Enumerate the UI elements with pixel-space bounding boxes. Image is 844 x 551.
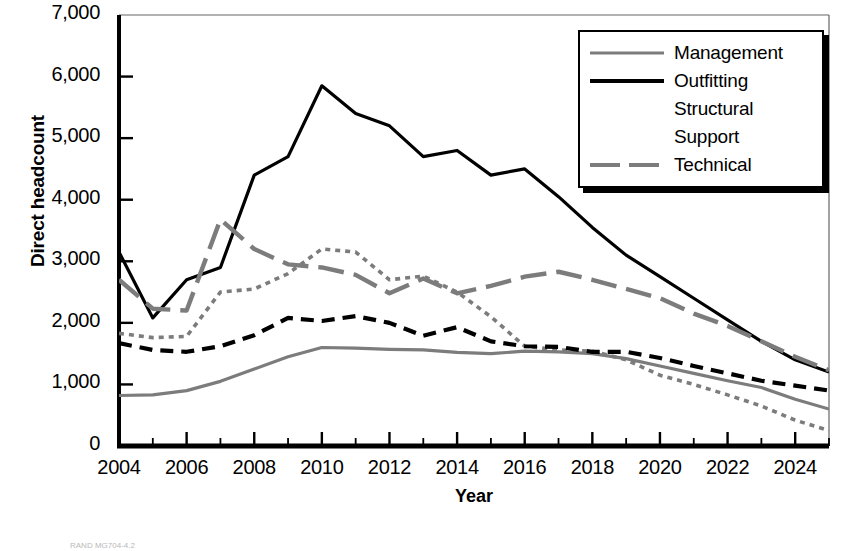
- legend-swatch-solid-gray-icon: [590, 46, 664, 60]
- legend-item-support[interactable]: Support: [590, 124, 820, 150]
- legend-item-technical[interactable]: Technical: [590, 152, 820, 178]
- legend-label: Outfitting: [674, 70, 748, 92]
- legend-label: Management: [674, 42, 783, 64]
- figure-credit: RAND MG704-4.2: [70, 541, 135, 550]
- chart-legend: ManagementOutfittingStructuralSupportTec…: [578, 30, 824, 188]
- legend-item-structural[interactable]: Structural: [590, 96, 820, 122]
- legend-label: Support: [674, 126, 739, 148]
- chart-figure: Direct headcount Year 01,0002,0003,0004,…: [0, 0, 844, 551]
- legend-label: Structural: [674, 98, 753, 120]
- legend-swatch-solid-black-icon: [590, 74, 664, 88]
- series-line-technical: [119, 219, 829, 370]
- legend-swatch-dashed-black-icon: [590, 130, 664, 144]
- legend-item-management[interactable]: Management: [590, 40, 820, 66]
- legend-label: Technical: [674, 154, 751, 176]
- legend-swatch-dotted-gray-icon: [590, 102, 664, 116]
- legend-item-outfitting[interactable]: Outfitting: [590, 68, 820, 94]
- series-line-management: [119, 347, 829, 409]
- series-line-structural: [119, 249, 829, 431]
- legend-swatch-longdash-gray-icon: [590, 158, 664, 172]
